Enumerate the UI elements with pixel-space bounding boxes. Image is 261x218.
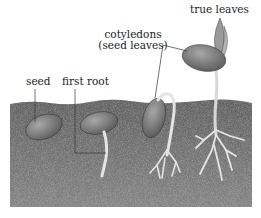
label-cotyledons-line2: (seed leaves) xyxy=(98,40,168,51)
label-seed: seed xyxy=(26,76,51,87)
label-true-leaves: true leaves xyxy=(190,4,249,15)
label-first-root: first root xyxy=(62,76,109,87)
label-cotyledons: cotyledons (seed leaves) xyxy=(98,29,168,51)
